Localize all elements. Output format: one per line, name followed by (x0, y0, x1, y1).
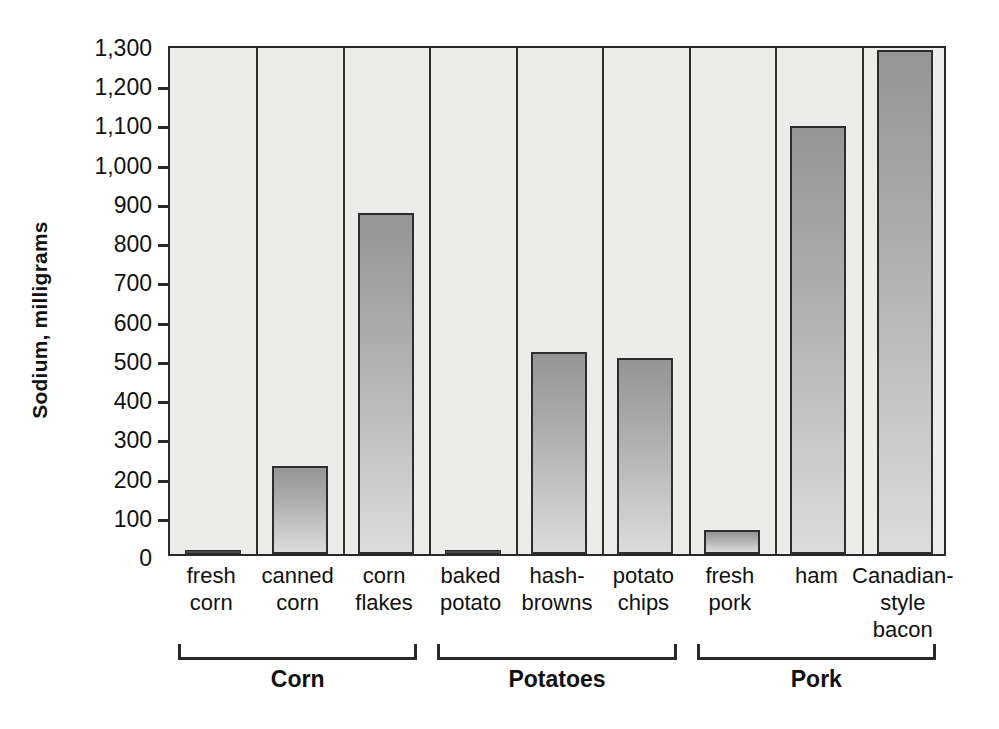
y-axis-tick-label: 500 (2, 348, 152, 375)
category-label: freshpork (705, 562, 754, 616)
category-label: hash-browns (522, 562, 593, 616)
category-label: cornflakes (355, 562, 412, 616)
bar[interactable] (790, 126, 846, 554)
bar-slot (862, 48, 948, 554)
y-axis-tick-label: 400 (2, 388, 152, 415)
y-axis-tick (158, 283, 170, 286)
plot-inner: 01002003004005006007008009001,0001,1001,… (170, 48, 944, 554)
bar[interactable] (704, 530, 760, 554)
bar-slot-divider (429, 48, 431, 554)
bracket-line (437, 644, 676, 660)
y-axis-tick-label: 100 (2, 505, 152, 532)
bar-slot (256, 48, 342, 554)
sodium-bar-chart-figure: Sodium, milligrams 010020030040050060070… (0, 0, 999, 729)
category-label: potatochips (613, 562, 674, 616)
y-axis-tick (158, 205, 170, 208)
y-axis-tick-label: 600 (2, 309, 152, 336)
y-axis-tick-label: 800 (2, 231, 152, 258)
bar-slot (170, 48, 256, 554)
group-label: Pork (697, 666, 936, 693)
group-label: Corn (178, 666, 417, 693)
bars-layer (170, 48, 944, 554)
bar[interactable] (617, 358, 673, 554)
bar[interactable] (445, 550, 501, 554)
bar[interactable] (185, 550, 241, 554)
bar[interactable] (531, 352, 587, 554)
bar-slot (602, 48, 688, 554)
y-axis-tick (158, 87, 170, 90)
y-axis-tick-label: 700 (2, 270, 152, 297)
y-axis-tick-label: 1,000 (2, 152, 152, 179)
category-label: cannedcorn (262, 562, 334, 616)
category-label: Canadian-stylebacon (852, 562, 954, 643)
group-brackets: CornPotatoesPork (168, 644, 946, 714)
y-axis-tick-label: 300 (2, 427, 152, 454)
y-axis-tick-label: 1,300 (2, 35, 152, 62)
bar-slot (516, 48, 602, 554)
bar[interactable] (272, 466, 328, 554)
y-axis-tick-label: 200 (2, 466, 152, 493)
category-label: bakedpotato (440, 562, 501, 616)
bar-slot (429, 48, 515, 554)
bar-slot-divider (343, 48, 345, 554)
bar-slot (689, 48, 775, 554)
category-label: ham (795, 562, 838, 589)
category-axis-labels: freshcorncannedcorncornflakesbakedpotato… (168, 562, 946, 638)
y-axis-tick (158, 126, 170, 129)
bar-slot (343, 48, 429, 554)
bar[interactable] (877, 50, 933, 554)
y-axis-tick (158, 362, 170, 365)
y-axis-tick (158, 480, 170, 483)
y-axis-tick (158, 519, 170, 522)
bar-slot (775, 48, 861, 554)
y-axis-tick-label: 1,200 (2, 74, 152, 101)
y-axis-tick (158, 323, 170, 326)
bar-slot-divider (256, 48, 258, 554)
y-axis-tick-label: 0 (2, 545, 152, 572)
bar-slot-divider (862, 48, 864, 554)
bar-slot-divider (516, 48, 518, 554)
y-axis-tick-label: 900 (2, 191, 152, 218)
y-axis-tick (158, 440, 170, 443)
y-axis-tick (158, 401, 170, 404)
bar[interactable] (358, 213, 414, 554)
plot-area: 01002003004005006007008009001,0001,1001,… (168, 46, 946, 556)
bracket-line (697, 644, 936, 660)
bar-slot-divider (602, 48, 604, 554)
category-label: freshcorn (187, 562, 236, 616)
y-axis-tick-label: 1,100 (2, 113, 152, 140)
y-axis-tick (158, 166, 170, 169)
y-axis-tick (158, 244, 170, 247)
bar-slot-divider (689, 48, 691, 554)
group-label: Potatoes (437, 666, 676, 693)
bar-slot-divider (775, 48, 777, 554)
bracket-line (178, 644, 417, 660)
